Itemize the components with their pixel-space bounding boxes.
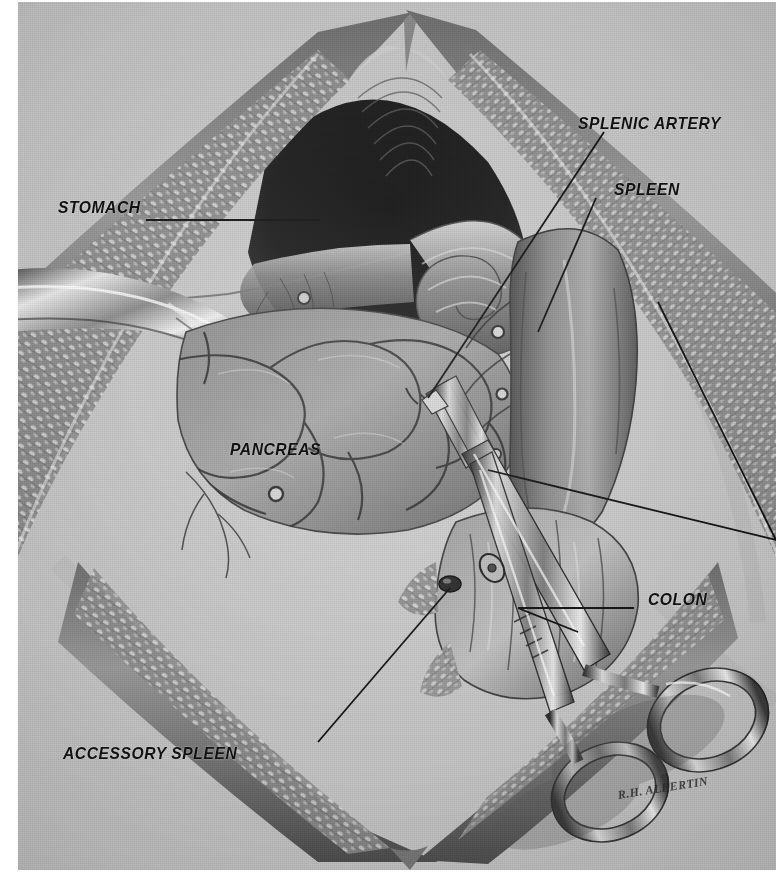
label-colon: COLON — [648, 590, 707, 610]
label-stomach: STOMACH — [58, 198, 141, 218]
artist-signature: R.H. ALBERTIN — [617, 774, 709, 803]
label-splenic-artery: SPLENIC ARTERY — [578, 114, 721, 134]
label-layer: STOMACH SPLENIC ARTERY SPLEEN PANCREAS C… — [18, 2, 776, 870]
label-spleen: SPLEEN — [614, 180, 680, 200]
label-pancreas: PANCREAS — [230, 440, 321, 460]
label-accessory-spleen: ACCESSORY SPLEEN — [63, 744, 237, 764]
illustration-plate: STOMACH SPLENIC ARTERY SPLEEN PANCREAS C… — [0, 0, 780, 880]
artwork-area: STOMACH SPLENIC ARTERY SPLEEN PANCREAS C… — [18, 2, 776, 870]
